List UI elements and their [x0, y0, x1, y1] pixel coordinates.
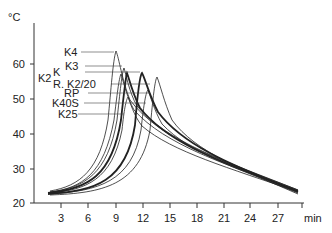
curves [48, 51, 298, 195]
x-tick-18: 18 [191, 212, 203, 224]
y-unit-label: °C [8, 11, 20, 23]
x-tick-15: 15 [164, 212, 176, 224]
x-tick-24: 24 [244, 212, 256, 224]
temperature-curve-chart: °C 20 30 40 50 60 3 6 9 12 15 18 21 24 2… [0, 0, 332, 233]
x-unit-label: min [304, 212, 322, 224]
curve-k40s [50, 90, 298, 194]
x-tick-27: 27 [272, 212, 284, 224]
y-tick-60: 60 [13, 58, 25, 70]
x-tick-6: 6 [85, 212, 91, 224]
y-tick-20: 20 [13, 197, 25, 209]
label-k4: K4 [64, 46, 77, 58]
x-tick-3: 3 [58, 212, 64, 224]
y-tick-50: 50 [13, 93, 25, 105]
series-labels: K4 K3 K K2 R. K2/20 RP K40S K25 [38, 46, 96, 120]
y-tick-40: 40 [13, 128, 25, 140]
x-tick-21: 21 [218, 212, 230, 224]
curve-rp [48, 73, 298, 194]
label-k25: K25 [58, 108, 78, 120]
label-k: K [53, 66, 61, 78]
x-tick-12: 12 [137, 212, 149, 224]
curve-k2 [50, 74, 298, 192]
label-k3: K3 [65, 60, 78, 72]
x-tick-9: 9 [113, 212, 119, 224]
label-k2: K2 [38, 72, 51, 84]
y-tick-30: 30 [13, 163, 25, 175]
